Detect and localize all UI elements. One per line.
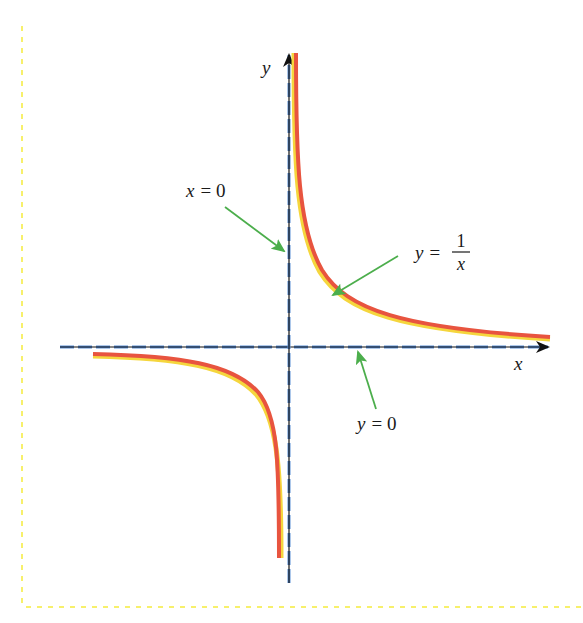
curve-annotation: y = 1 x bbox=[333, 231, 470, 295]
vertical-asymptote-label: x= 0 bbox=[185, 180, 225, 201]
horizontal-asymptote-annotation: y= 0 bbox=[355, 352, 396, 434]
arrow-icon bbox=[358, 352, 376, 409]
curve-label-numerator: 1 bbox=[457, 231, 466, 251]
arrow-icon bbox=[225, 207, 284, 251]
y-axis-label: y bbox=[260, 57, 271, 78]
curve-label-lhs: y = bbox=[413, 242, 441, 263]
curve-right-branch bbox=[294, 53, 550, 339]
curve-label-denominator: x bbox=[456, 254, 465, 274]
arrow-icon bbox=[333, 256, 398, 295]
curve-left-branch bbox=[93, 354, 281, 558]
diagram-canvas: y x x= 0 y = 1 x y= 0 bbox=[0, 0, 583, 623]
hyperbola-diagram: y x x= 0 y = 1 x y= 0 bbox=[0, 0, 583, 623]
horizontal-asymptote-label: y= 0 bbox=[355, 413, 396, 434]
x-axis-label: x bbox=[513, 353, 523, 374]
vertical-asymptote-annotation: x= 0 bbox=[185, 180, 284, 251]
frame-border bbox=[22, 26, 583, 607]
